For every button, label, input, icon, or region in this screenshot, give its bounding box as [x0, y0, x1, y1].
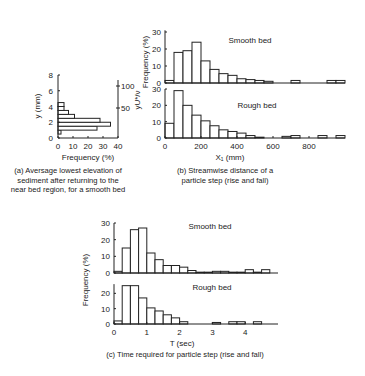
histogram-bar	[183, 51, 192, 83]
y-axis-label: Frequency (%)	[81, 253, 90, 306]
y-tick-label: 0	[106, 269, 111, 278]
y-tick-label: 30	[101, 219, 110, 228]
histogram-bar	[201, 61, 210, 83]
histogram-bar	[122, 248, 130, 273]
panel-title: Smooth bed	[188, 222, 231, 231]
histogram-bar	[171, 318, 179, 324]
histogram-a	[58, 103, 111, 135]
caption-b: (b) Streamwise distance of a particle st…	[150, 166, 300, 185]
x-tick-label: 30	[99, 142, 108, 151]
x-tick-label: 200	[194, 142, 208, 151]
y-tick-label: 4	[49, 103, 54, 112]
y-tick-label: 10	[152, 62, 161, 71]
y-tick-label: 0	[157, 134, 162, 143]
panel-title: Rough bed	[192, 283, 231, 292]
x-tick-label: 40	[114, 142, 123, 151]
caption-b-line-2: particle step (rise and fall)	[150, 176, 300, 186]
histogram-bar	[58, 122, 111, 126]
panel-title: Smooth bed	[228, 36, 271, 45]
caption-c-line-1: (c) Time required for particle step (ris…	[60, 350, 310, 360]
histogram-bar	[58, 118, 100, 122]
histogram-c-rough	[114, 286, 262, 324]
histogram-bar	[210, 126, 219, 138]
y-tick-label: 10	[101, 252, 110, 261]
histogram-bar	[219, 130, 228, 138]
histogram-bar	[228, 131, 237, 138]
histogram-bar	[147, 308, 155, 324]
histogram-bar	[192, 42, 201, 83]
y-tick-label: 20	[152, 45, 161, 54]
histogram-b-smooth	[165, 42, 345, 83]
x-tick-label: 0	[56, 142, 61, 151]
y-tick-label: 10	[152, 118, 161, 127]
x-tick-label: 3	[210, 328, 215, 337]
x-tick-label: 1	[145, 328, 150, 337]
y-tick-label: 10	[101, 305, 110, 314]
y2-axis-label: yU*/ν	[133, 90, 142, 109]
y-tick-label: 8	[49, 71, 54, 80]
histogram-bar	[58, 110, 69, 114]
y2-tick-label: 100	[121, 82, 135, 91]
x-tick-label: 800	[302, 142, 316, 151]
histogram-bar	[237, 79, 246, 83]
x-tick-label: 10	[69, 142, 78, 151]
histogram-bar	[165, 123, 174, 138]
y-tick-label: 20	[152, 101, 161, 110]
histogram-bar	[171, 266, 179, 274]
x-tick-label: 600	[266, 142, 280, 151]
histogram-bar	[163, 315, 171, 324]
histogram-bar	[58, 114, 75, 118]
panel-title: Rough bed	[237, 101, 276, 110]
x-tick-label: 0	[163, 142, 168, 151]
histogram-bar	[183, 105, 192, 138]
histogram-bar	[201, 121, 210, 138]
histogram-bar	[174, 91, 183, 138]
x-axis-label: Frequency (%)	[62, 153, 115, 162]
histogram-bar	[58, 103, 64, 107]
y-axis-label: Frequency (%)	[141, 35, 150, 88]
histogram-bar	[192, 115, 201, 138]
histogram-bar	[219, 74, 228, 83]
histogram-bar	[155, 311, 163, 324]
x-tick-label: 4	[243, 328, 248, 337]
y-tick-label: 20	[101, 289, 110, 298]
x-tick-label: 20	[84, 142, 93, 151]
histogram-bar	[139, 228, 147, 273]
x-tick-label: 2	[177, 328, 182, 337]
x-tick-label: 400	[230, 142, 244, 151]
caption-a-line-1: (a) Aversage lowest elevation of	[2, 166, 134, 176]
histogram-bar	[58, 126, 97, 130]
histogram-bar	[139, 298, 147, 324]
y-axis-label: y (mm)	[33, 93, 42, 118]
x-axis-label: T (sec)	[170, 339, 195, 348]
histogram-bar	[155, 260, 163, 273]
histogram-c-smooth	[114, 228, 270, 273]
histogram-bar	[163, 266, 171, 274]
caption-a: (a) Aversage lowest elevation of sedimen…	[2, 166, 134, 195]
histogram-bar	[130, 230, 138, 273]
histogram-bar	[237, 133, 246, 138]
histogram-bar	[210, 69, 219, 83]
y-tick-label: 6	[49, 87, 54, 96]
histogram-bar	[180, 267, 188, 273]
y2-tick-label: 50	[121, 104, 130, 113]
y-tick-label: 30	[152, 28, 161, 37]
histogram-bar	[147, 253, 155, 273]
caption-c: (c) Time required for particle step (ris…	[60, 350, 310, 360]
caption-a-line-3: near bed region, for a smooth bed	[2, 185, 134, 195]
x-tick-label: 0	[112, 328, 117, 337]
histogram-bar	[174, 52, 183, 83]
y-tick-label: 30	[152, 85, 161, 94]
histogram-bar	[122, 286, 130, 324]
y-tick-label: 0	[49, 134, 54, 143]
y-tick-label: 20	[101, 236, 110, 245]
y-tick-label: 0	[106, 320, 111, 329]
histogram-bar	[58, 107, 64, 111]
caption-a-line-2: sediment after returning to the	[2, 176, 134, 186]
x-axis-label: X₁ (mm)	[216, 153, 245, 162]
histogram-bar	[130, 286, 138, 324]
caption-b-line-1: (b) Streamwise distance of a	[150, 166, 300, 176]
histogram-b-rough	[165, 91, 345, 138]
histogram-bar	[228, 75, 237, 83]
y-tick-label: 2	[49, 118, 54, 127]
